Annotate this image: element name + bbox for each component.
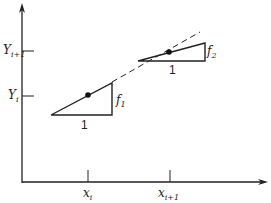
label-x-i: xi xyxy=(83,187,92,202)
slope-diagram: Yi+1 Yi xi xi+1 1 f1 1 f2 xyxy=(0,0,271,203)
triangle-1-run-label: 1 xyxy=(81,119,88,131)
diagram-graphics xyxy=(0,0,271,203)
label-x-i-plus-1: xi+1 xyxy=(158,187,179,202)
slope-triangle-1 xyxy=(51,83,112,115)
point-2 xyxy=(166,49,172,55)
dashed-secant-line xyxy=(112,32,200,82)
label-y-i-plus-1: Yi+1 xyxy=(3,44,25,59)
triangle-2-run-label: 1 xyxy=(169,64,176,76)
triangle-2-rise-label: f2 xyxy=(207,45,217,60)
triangle-1-rise-label: f1 xyxy=(116,94,126,109)
point-1 xyxy=(85,92,91,98)
label-y-i: Yi xyxy=(8,89,18,104)
